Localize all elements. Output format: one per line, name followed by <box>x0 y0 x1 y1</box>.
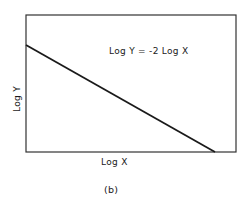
y-axis-label: Log Y <box>12 82 22 116</box>
figure-caption: (b) <box>104 184 118 195</box>
log-log-chart: Log Y = -2 Log X Log Y Log X (b) <box>0 0 245 207</box>
data-line <box>26 45 215 152</box>
equation-annotation: Log Y = -2 Log X <box>109 46 188 56</box>
chart-canvas <box>0 0 245 207</box>
x-axis-label: Log X <box>101 157 128 167</box>
plot-frame <box>26 15 236 152</box>
